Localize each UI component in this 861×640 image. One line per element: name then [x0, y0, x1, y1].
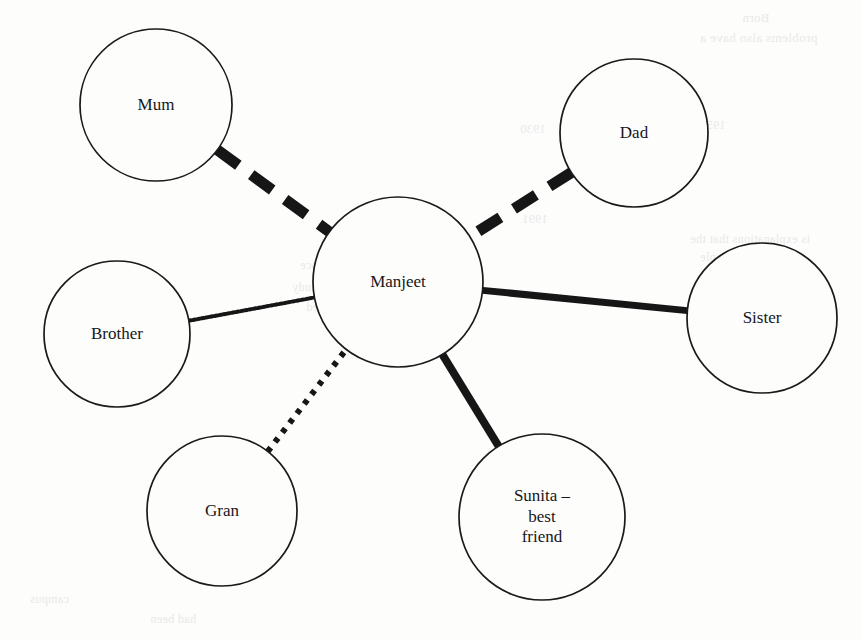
node-circle-gran[interactable] — [147, 436, 297, 586]
diagram-page: Bornproblems also have a19301950is expla… — [0, 0, 861, 640]
node-circle-dad[interactable] — [560, 59, 708, 207]
node-circle-sister[interactable] — [687, 243, 837, 393]
nodes-group — [44, 29, 837, 600]
edge-brother — [189, 297, 315, 320]
edge-mum — [217, 150, 329, 232]
edge-sister — [483, 290, 688, 310]
edge-dad — [470, 173, 572, 237]
relationship-diagram — [0, 0, 861, 640]
node-circle-sunita[interactable] — [459, 434, 625, 600]
node-circle-mum[interactable] — [80, 29, 232, 181]
edge-gran — [268, 349, 347, 451]
edge-sunita — [442, 354, 498, 446]
node-circle-brother[interactable] — [44, 261, 190, 407]
node-circle-manjeet[interactable] — [313, 197, 483, 367]
